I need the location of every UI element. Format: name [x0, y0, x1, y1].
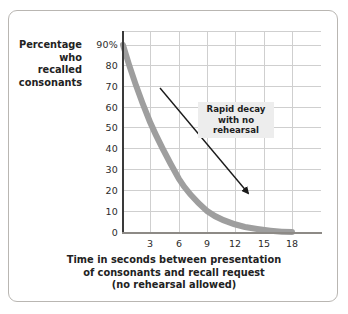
- figure-container: Percentage who recalled consonants: [0, 0, 348, 314]
- x-tick-label: 15: [252, 238, 276, 249]
- y-tick-label: 60: [84, 102, 118, 113]
- x-tick-label: 3: [138, 238, 162, 249]
- x-axis-label-line-2: of consonants and recall request: [40, 267, 308, 280]
- x-tick-label: 6: [167, 238, 191, 249]
- y-tick-label: 0: [84, 227, 118, 238]
- y-tick-label: 50: [84, 122, 118, 133]
- annotation-line-1: Rapid decay: [201, 104, 271, 115]
- y-axis-line: [122, 31, 124, 233]
- x-axis-line: [122, 232, 322, 234]
- y-axis-label: Percentage who recalled consonants: [12, 39, 82, 89]
- y-tick-label: 90%: [84, 39, 118, 50]
- y-axis-label-line-3: consonants: [12, 77, 82, 90]
- annotation-line-2: with no: [201, 115, 271, 126]
- x-axis-label-line-1: Time in seconds between presentation: [40, 254, 308, 267]
- y-tick-label: 10: [84, 206, 118, 217]
- annotation-line-3: rehearsal: [201, 125, 271, 136]
- y-tick-label: 80: [84, 60, 118, 71]
- x-tick-label: 18: [280, 238, 304, 249]
- y-tick-label: 70: [84, 81, 118, 92]
- y-axis-label-line-2: who recalled: [12, 52, 82, 77]
- annotation-label: Rapid decay with no rehearsal: [198, 102, 274, 138]
- x-axis-label-line-3: (no rehearsal allowed): [40, 279, 308, 292]
- y-tick-label: 30: [84, 164, 118, 175]
- x-tick-label: 9: [195, 238, 219, 249]
- y-axis-label-line-1: Percentage: [12, 39, 82, 52]
- y-tick-label: 20: [84, 185, 118, 196]
- y-tick-label: 40: [84, 143, 118, 154]
- x-tick-label: 12: [223, 238, 247, 249]
- x-axis-label: Time in seconds between presentation of …: [40, 254, 308, 292]
